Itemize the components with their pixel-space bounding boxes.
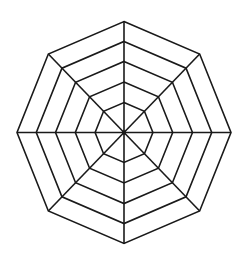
radar-grid-diagram <box>0 0 249 258</box>
octagon-spider-web <box>0 0 249 258</box>
center-hub <box>122 130 126 134</box>
